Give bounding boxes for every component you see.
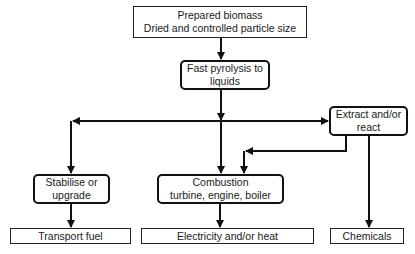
node-transport-fuel-label: Transport fuel: [38, 230, 102, 243]
node-electricity-heat: Electricity and/or heat: [141, 228, 314, 244]
node-chemicals: Chemicals: [330, 228, 404, 244]
node-prepared-biomass-subtitle: Dried and controlled particle size: [144, 22, 296, 35]
node-stabilise-upgrade-line1: Stabilise or: [46, 176, 98, 189]
node-stabilise-upgrade: Stabilise or upgrade: [33, 174, 110, 204]
node-fast-pyrolysis: Fast pyrolysis to liquids: [180, 60, 270, 90]
node-combustion-line1: Combustion: [192, 176, 248, 189]
node-extract-react-line2: react: [357, 121, 380, 134]
node-transport-fuel: Transport fuel: [10, 228, 131, 244]
node-stabilise-upgrade-line2: upgrade: [52, 189, 91, 202]
node-combustion: Combustion turbine, engine, boiler: [157, 174, 284, 204]
node-fast-pyrolysis-line1: Fast pyrolysis to: [187, 62, 263, 75]
node-prepared-biomass: Prepared biomass Dried and controlled pa…: [133, 6, 307, 38]
node-extract-react: Extract and/or react: [329, 106, 408, 136]
node-combustion-line2: turbine, engine, boiler: [170, 189, 271, 202]
node-chemicals-label: Chemicals: [342, 230, 391, 243]
node-prepared-biomass-title: Prepared biomass: [177, 9, 262, 22]
arrow-extract-return: [246, 136, 346, 151]
node-fast-pyrolysis-line2: liquids: [210, 75, 240, 88]
node-extract-react-line1: Extract and/or: [336, 108, 401, 121]
node-electricity-heat-label: Electricity and/or heat: [177, 230, 278, 243]
